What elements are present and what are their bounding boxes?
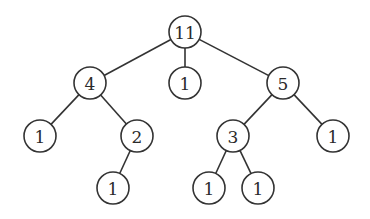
tree-node: 1 xyxy=(193,172,225,204)
node-label: 4 xyxy=(85,74,96,94)
tree-edge xyxy=(216,151,227,174)
tree-node: 1 xyxy=(24,120,56,152)
tree-edges xyxy=(51,39,322,173)
tree-edge xyxy=(51,95,79,125)
tree-edge xyxy=(244,95,272,125)
node-label: 1 xyxy=(108,179,119,199)
node-label: 5 xyxy=(278,74,289,94)
node-label: 1 xyxy=(253,179,264,199)
tree-edge xyxy=(104,40,171,76)
tree-node: 2 xyxy=(121,120,153,152)
node-label: 1 xyxy=(35,127,46,147)
tree-edge xyxy=(294,95,322,125)
tree-edge xyxy=(240,150,251,173)
node-label: 11 xyxy=(174,23,196,43)
node-label: 1 xyxy=(328,127,339,147)
tree-edge xyxy=(101,95,127,124)
tree-node: 1 xyxy=(317,120,349,152)
node-label: 1 xyxy=(204,179,215,199)
tree-node: 3 xyxy=(217,120,249,152)
node-label: 3 xyxy=(228,127,239,147)
tree-node: 1 xyxy=(169,67,201,99)
tree-edge xyxy=(199,39,269,75)
tree-node: 5 xyxy=(267,67,299,99)
tree-node: 11 xyxy=(169,16,201,48)
node-label: 1 xyxy=(180,74,191,94)
tree-node: 1 xyxy=(97,172,129,204)
node-label: 2 xyxy=(132,127,143,147)
tree-edge xyxy=(120,151,131,174)
tree-diagram: 114151231111 xyxy=(0,0,370,219)
tree-node: 4 xyxy=(74,67,106,99)
tree-node: 1 xyxy=(242,172,274,204)
tree-nodes: 114151231111 xyxy=(24,16,349,204)
